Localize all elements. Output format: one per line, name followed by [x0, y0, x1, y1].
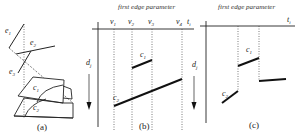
edge-e3 — [18, 51, 31, 73]
segment-c1-c — [238, 58, 259, 66]
caption-c: (c) — [249, 120, 259, 130]
label-c1-c: c1 — [246, 45, 252, 55]
panel-a: e1 e2 e3 c1 c2 (a) — [5, 24, 73, 132]
surface-c1-flap — [63, 86, 72, 99]
panel-b: first edge parameter v1 v2 v3 v4 ti c1 c… — [86, 3, 194, 131]
edge-e1 — [9, 24, 24, 48]
header-c: first edge parameter — [218, 3, 275, 11]
label-c2-b: c2 — [113, 93, 120, 103]
surface-c1 — [18, 77, 64, 103]
segment-c-right — [259, 79, 286, 81]
label-c2: c2 — [33, 103, 40, 113]
header-b: first edge parameter — [118, 3, 175, 11]
label-e2: e2 — [30, 38, 37, 48]
label-v4: v4 — [176, 17, 183, 27]
label-v1: v1 — [110, 17, 116, 27]
label-v2: v2 — [128, 17, 135, 27]
diagram-canvas: e1 e2 e3 c1 c2 (a) first edge parameter … — [0, 0, 301, 135]
segment-c2-b — [114, 79, 182, 106]
label-v3: v3 — [148, 17, 155, 27]
dj-arrow-left-head — [87, 102, 92, 110]
label-dj-left: dj — [86, 58, 92, 68]
dj-arrow-right-head — [192, 102, 197, 110]
label-c1-b: c1 — [140, 50, 146, 60]
caption-b: (b) — [139, 121, 150, 131]
surface-c2 — [14, 98, 73, 118]
panel-c: first edge parameter dj ti c1 c2 (c) — [192, 3, 296, 130]
label-e3: e3 — [9, 67, 16, 77]
label-c2-c: c2 — [222, 89, 229, 99]
label-dj-right: dj — [192, 60, 198, 70]
label-ti-c: ti — [287, 15, 291, 25]
surface-c2-bottom — [14, 116, 73, 118]
label-ti-b: ti — [187, 17, 191, 27]
caption-a: (a) — [37, 122, 47, 132]
segment-c1-b — [132, 60, 152, 68]
label-e1: e1 — [5, 26, 11, 36]
